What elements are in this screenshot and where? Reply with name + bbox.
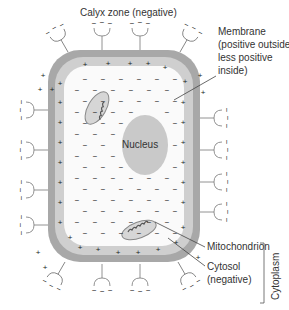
negative-charge: − [173,207,178,216]
negative-charge: − [173,75,178,84]
negative-charge: − [155,97,160,106]
svg-text:−: − [189,23,198,33]
svg-text:−: − [47,281,56,291]
negative-charge: − [165,108,170,117]
svg-text:−: − [16,107,25,112]
positive-charge: + [201,88,206,97]
membrane-label-1: Membrane [218,26,266,37]
negative-charge: − [93,152,98,161]
calyx-receptor: − − − [200,108,232,129]
svg-text:−: − [40,276,49,286]
positive-charge: + [156,245,161,254]
negative-charge: − [147,196,152,205]
svg-text:−: − [223,148,232,153]
negative-charge: − [111,218,116,227]
negative-charge: − [137,75,142,84]
svg-text:−: − [223,210,232,215]
calyx-receptor: − − − [200,140,232,161]
positive-charge: + [96,245,101,254]
svg-text:−: − [17,179,26,184]
positive-charge: + [43,263,48,272]
negative-charge: − [101,207,106,216]
svg-text:−: − [138,18,143,27]
svg-text:−: − [194,276,203,286]
svg-text:−: − [223,116,232,121]
cytosol-label-1: Cytosol [207,261,240,272]
positive-charge: + [163,63,168,72]
calyx-receptor: − − − [200,202,232,223]
positive-charge: + [128,59,133,68]
cytosol-label-2: (negative) [207,274,251,285]
svg-text:−: − [17,155,26,160]
negative-charge: − [155,185,160,194]
negative-charge: − [155,229,160,238]
negative-charge: − [93,218,98,227]
svg-text:−: − [180,284,189,294]
calyx-receptor: − − − [129,264,150,296]
svg-text:−: − [16,187,25,192]
negative-charge: − [155,75,160,84]
negative-charge: − [75,218,80,227]
svg-text:−: − [222,156,231,161]
positive-charge: + [58,98,63,107]
negative-charge: − [147,218,152,227]
positive-charge: + [68,233,73,242]
svg-text:−: − [16,222,25,227]
membrane-label-4: inside) [218,65,247,76]
calyx-label: Calyx zone (negative) [80,7,177,18]
positive-charge: + [58,218,63,227]
svg-text:−: − [222,140,231,145]
positive-charge: + [181,198,186,207]
positive-charge: + [181,138,186,147]
negative-charge: − [137,97,142,106]
positive-charge: + [183,77,188,86]
svg-text:−: − [107,286,112,295]
negative-charge: − [101,229,106,238]
negative-charge: − [83,75,88,84]
negative-charge: − [173,163,178,172]
positive-charge: + [146,59,151,68]
svg-text:−: − [146,19,151,28]
negative-charge: − [75,196,80,205]
negative-charge: − [147,174,152,183]
svg-text:−: − [182,20,191,30]
svg-text:−: − [222,202,231,207]
negative-charge: − [83,229,88,238]
positive-charge: + [106,59,111,68]
svg-text:−: − [222,108,231,113]
svg-text:−: − [145,286,150,295]
negative-charge: − [93,174,98,183]
calyx-receptor: − − − [92,18,113,50]
negative-charge: − [129,108,134,117]
calyx-receptor: − − − [91,264,112,296]
svg-text:−: − [223,180,232,185]
svg-text:−: − [137,287,142,296]
positive-charge: + [116,248,121,257]
negative-charge: − [83,141,88,150]
negative-charge: − [93,130,98,139]
positive-charge: + [181,98,186,107]
svg-text:−: − [17,139,26,144]
membrane-label-2: (positive outside, [218,39,289,50]
calyx-receptor: − − − [16,214,48,235]
svg-text:−: − [44,28,53,38]
svg-text:−: − [222,218,231,223]
positive-charge: + [181,158,186,167]
negative-charge: − [119,119,124,128]
positive-charge: + [50,85,55,94]
negative-charge: − [75,174,80,183]
negative-charge: − [129,218,134,227]
negative-charge: − [75,108,80,117]
svg-text:−: − [108,19,113,28]
negative-charge: − [83,185,88,194]
calyx-receptor: − − − [16,179,48,200]
positive-charge: + [198,71,203,80]
svg-text:−: − [54,284,63,294]
svg-text:−: − [92,19,97,28]
negative-charge: − [129,196,134,205]
negative-charge: − [173,229,178,238]
calyx-receptor: − − − [16,139,48,160]
calyx-receptor: − − − [130,18,151,50]
cytoplasm-label: Cytoplasm [270,253,281,300]
membrane-label-3: less positive [218,52,273,63]
